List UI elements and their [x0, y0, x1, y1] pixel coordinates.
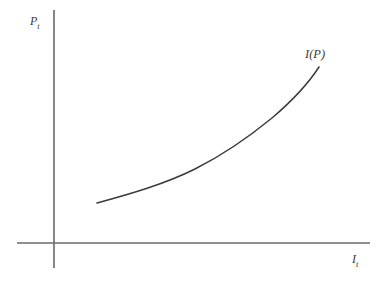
figure-background	[0, 0, 382, 283]
figure-canvas: Pt It I(P)	[0, 0, 382, 283]
curve-label: I(P)	[304, 47, 325, 61]
investment-function-figure: Pt It I(P)	[0, 0, 382, 283]
